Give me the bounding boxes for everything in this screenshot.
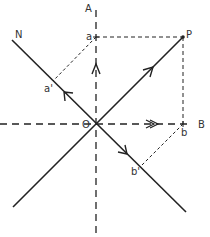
label-origin: O — [82, 119, 90, 130]
label-axis-b: B — [198, 119, 205, 130]
vector-diagram: A B N O P a b a' b' — [0, 0, 210, 237]
label-proj-a: a — [86, 31, 92, 42]
b-to-b-prime-projection — [140, 124, 183, 167]
label-axis-a: A — [85, 3, 92, 14]
vector-op-line — [13, 37, 183, 207]
label-proj-b: b — [181, 127, 187, 138]
label-axis-n: N — [15, 29, 22, 40]
diagram-svg: A B N O P a b a' b' — [0, 0, 210, 237]
a-to-a-prime-projection — [53, 37, 96, 81]
label-proj-b-prime: b' — [131, 166, 140, 177]
axis-n-line — [12, 40, 186, 212]
label-point-p: P — [186, 29, 192, 40]
label-proj-a-prime: a' — [44, 83, 53, 94]
point-p-dot — [181, 35, 185, 39]
